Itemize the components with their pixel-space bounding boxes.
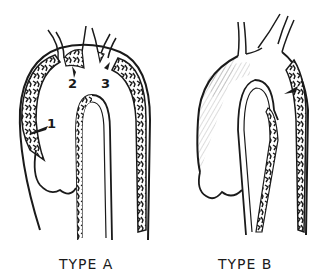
aortic-dissection-diagram	[0, 0, 329, 280]
type-b-aorta	[197, 14, 308, 235]
type-a-aorta	[20, 26, 150, 240]
marker-1: 1	[47, 116, 56, 131]
marker-3: 3	[101, 76, 110, 91]
marker-2: 2	[68, 76, 77, 91]
caption-type-a: TYPE A	[59, 256, 113, 272]
caption-type-b: TYPE B	[218, 256, 272, 272]
